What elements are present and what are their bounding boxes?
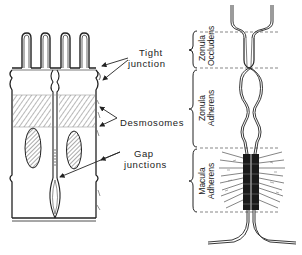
desmosome-plaque [219, 152, 285, 210]
epithelial-cells-drawing [10, 33, 100, 221]
label-desmosomes: Desmosomes [120, 117, 184, 128]
basal-membranes [208, 210, 296, 244]
label-tight-junction-line1: Tight [139, 47, 163, 58]
cell-membranes [231, 5, 273, 154]
label-zonula-adherens: Zonula Adherens [198, 79, 216, 137]
microvilli [12, 33, 96, 70]
label-tight-junction-line2: junction [128, 58, 166, 69]
label-gap-junctions-line1: Gap [134, 148, 154, 159]
cell-left-wall [10, 70, 12, 218]
label-zonula-occludens: Zonula Occludens [198, 30, 216, 66]
label-zonula-adherens-line2: Adherens [207, 79, 216, 137]
nucleus-left [25, 128, 41, 168]
cell-right-wall [96, 70, 98, 218]
nucleus-right [67, 131, 82, 169]
region-braces [189, 31, 197, 212]
label-macula-adherens: Macula Adherens [198, 155, 216, 207]
desmosome-band-right [59, 95, 95, 127]
label-gap-junctions-line2: junctions [124, 159, 167, 170]
label-macula-adherens-line2: Adherens [207, 155, 216, 207]
desmosome-band-left [13, 95, 51, 127]
label-zonula-occludens-line2: Occludens [207, 30, 216, 66]
intercellular-boundary [50, 70, 60, 218]
